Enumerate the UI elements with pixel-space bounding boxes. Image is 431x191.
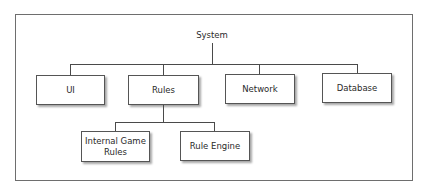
node-ui: UI — [36, 75, 105, 105]
node-rule-engine-label: Rule Engine — [190, 141, 240, 152]
connector-rules — [163, 64, 164, 75]
connector-rules-stem — [163, 105, 164, 122]
node-internal-game-rules-label: Internal Game Rules — [85, 136, 146, 158]
connector-network — [259, 64, 260, 74]
node-network: Network — [225, 74, 295, 104]
connector-rules-bus — [115, 122, 215, 123]
node-internal-game-rules: Internal Game Rules — [81, 131, 150, 162]
connector-root-stem — [212, 43, 213, 65]
connector-ui — [70, 64, 71, 75]
node-rule-engine: Rule Engine — [180, 131, 250, 161]
connector-internal-game-rules — [115, 122, 116, 131]
connector-database — [357, 64, 358, 73]
root-node-system: System — [182, 29, 242, 41]
node-rules: Rules — [128, 75, 199, 105]
connector-level1-bus — [70, 64, 358, 65]
node-rules-label: Rules — [152, 85, 175, 96]
node-network-label: Network — [242, 84, 278, 95]
node-database: Database — [322, 73, 392, 103]
connector-rule-engine — [214, 122, 215, 131]
node-database-label: Database — [337, 83, 378, 94]
node-ui-label: UI — [66, 85, 75, 96]
